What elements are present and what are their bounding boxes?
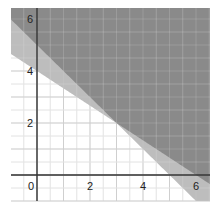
x-tick-label: 4 [140,180,146,192]
x-tick-label: 6 [193,180,199,192]
inequality-graph: 0246246 [0,0,223,212]
y-tick-label: 2 [27,117,33,129]
y-tick-label: 4 [27,65,33,77]
x-tick-label: 0 [28,180,34,192]
x-tick-label: 2 [87,180,93,192]
y-tick-label: 6 [27,13,33,25]
